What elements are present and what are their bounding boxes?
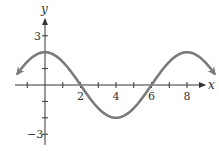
x-tick-label-2: 2: [77, 90, 84, 103]
x-axis-label: x: [208, 78, 215, 92]
y-tick-label-3: 3: [34, 30, 41, 43]
chart: 2 4 6 8 3 −3 y x: [0, 0, 219, 151]
x-tick-label-4: 4: [113, 90, 120, 103]
x-tick-label-8: 8: [184, 90, 191, 103]
y-tick-label-minus-3: −3: [27, 128, 43, 141]
x-tick-label-6: 6: [148, 90, 155, 103]
y-axis-label: y: [40, 2, 48, 16]
